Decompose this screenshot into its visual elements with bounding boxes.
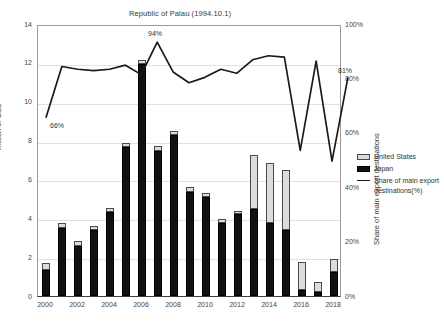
y-axis-left-tick-label: 12 xyxy=(0,59,32,66)
chart-legend: United States Japan Share of main export… xyxy=(357,152,443,198)
plot-area: 66%94%81% xyxy=(37,25,341,297)
data-annotation: 66% xyxy=(50,122,64,129)
y-axis-left-tick-label: 6 xyxy=(0,176,32,183)
y-axis-right-tick-label: 100% xyxy=(345,21,379,28)
share-line-path xyxy=(46,42,348,161)
y-axis-right-tick-label: 0% xyxy=(345,293,379,300)
y-axis-left-tick-label: 10 xyxy=(0,98,32,105)
y-axis-right-tick-label: 60% xyxy=(345,129,379,136)
y-axis-right-tick-label: 80% xyxy=(345,75,379,82)
legend-item-japan[interactable]: Japan xyxy=(357,164,443,174)
data-annotation: 81% xyxy=(338,67,352,74)
y-axis-left-tick-label: 0 xyxy=(0,293,32,300)
legend-label-share: Share of main export destinations(%) xyxy=(374,176,443,196)
japan-solid-swatch-icon xyxy=(357,166,370,172)
y-axis-left-tick-label: 8 xyxy=(0,137,32,144)
export-destinations-chart: Republic of Palau (1994.10.1) Million of… xyxy=(0,0,444,333)
legend-label-japan: Japan xyxy=(374,164,443,174)
chart-title: Republic of Palau (1994.10.1) xyxy=(0,9,360,18)
us-pattern-swatch-icon xyxy=(357,154,370,160)
y-axis-left-tick-label: 4 xyxy=(0,215,32,222)
y-axis-left-tick-label: 14 xyxy=(0,21,32,28)
share-line-series xyxy=(38,26,340,296)
y-axis-left-tick-label: 2 xyxy=(0,254,32,261)
legend-item-share[interactable]: Share of main export destinations(%) xyxy=(357,176,443,196)
data-annotation: 94% xyxy=(148,30,162,37)
x-axis-tick-label: 2018 xyxy=(313,301,353,308)
legend-item-united-states[interactable]: United States xyxy=(357,152,443,162)
legend-label-united-states: United States xyxy=(374,152,443,162)
y-axis-right-tick-label: 20% xyxy=(345,238,379,245)
share-line-swatch-icon xyxy=(357,180,370,181)
